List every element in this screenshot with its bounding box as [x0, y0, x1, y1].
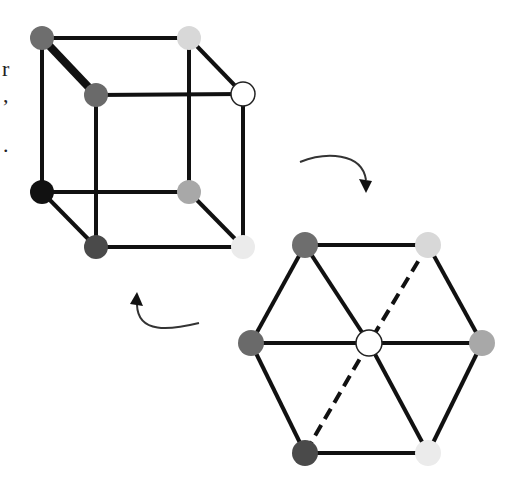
hexagon-edge: [369, 343, 428, 453]
cube-edge: [96, 94, 243, 95]
hexagon-edge: [428, 245, 482, 343]
hexagon-edge: [305, 245, 369, 343]
hex-bottom-left-node: [292, 440, 318, 466]
back-top-left-node: [30, 26, 54, 50]
cube-edges: [42, 38, 243, 247]
hexagon-edge-dashed: [305, 343, 369, 453]
diagram-canvas: r,.: [0, 0, 523, 485]
hexagon-edge: [251, 245, 305, 343]
hexagon-nodes: [238, 232, 495, 466]
front-bottom-left-node: [84, 235, 108, 259]
back-bottom-left-node: [30, 180, 54, 204]
back-top-right-node: [177, 26, 201, 50]
hex-top-right-node: [415, 232, 441, 258]
back-bottom-right-node: [177, 180, 201, 204]
cube-to-hexagon-diagram: [0, 0, 523, 485]
text-fragment: ,: [3, 84, 9, 106]
hexagon-edge: [251, 343, 305, 453]
front-top-right-node: [231, 82, 255, 106]
front-top-left-node: [84, 83, 108, 107]
hex-top-left-node: [292, 232, 318, 258]
hex-left-node: [238, 330, 264, 356]
arrowhead-icon: [359, 179, 372, 193]
arrow-cube-to-hexagon: [300, 156, 366, 180]
hex-right-node: [469, 330, 495, 356]
front-bottom-right-node: [231, 235, 255, 259]
hex-bottom-right-node: [415, 440, 441, 466]
arrowhead-icon: [130, 292, 143, 306]
arrow-hexagon-to-cube: [137, 305, 199, 328]
text-fragment: .: [3, 134, 9, 156]
hexagon-edge: [428, 343, 482, 453]
hexagon-edge-dashed: [369, 245, 428, 343]
hex-center-node: [356, 330, 382, 356]
text-fragment: r: [2, 58, 9, 80]
